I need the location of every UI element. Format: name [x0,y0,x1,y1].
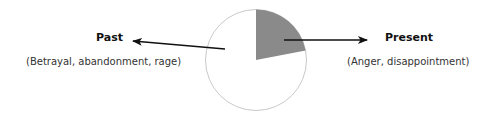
present-label: Present [385,31,433,44]
past-label: Past [96,31,123,44]
past-description: (Betrayal, abandonment, rage) [26,56,181,67]
present-description: (Anger, disappointment) [347,56,469,67]
